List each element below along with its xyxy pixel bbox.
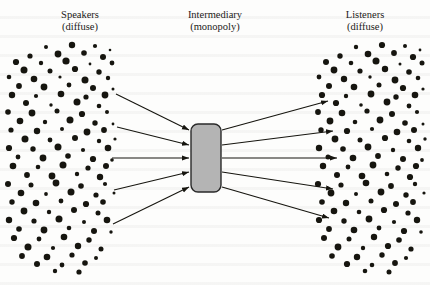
field-dot — [68, 189, 75, 196]
field-dot — [112, 123, 115, 126]
field-dot — [319, 199, 325, 205]
field-dot — [407, 139, 412, 144]
field-dot — [392, 260, 398, 266]
listeners-label-title: Listeners — [346, 9, 385, 20]
field-dot — [387, 270, 392, 275]
field-dot — [37, 237, 42, 242]
field-dot — [112, 88, 115, 91]
field-dot — [323, 59, 329, 65]
field-dot — [76, 269, 81, 274]
field-dot — [33, 200, 40, 207]
field-dot — [402, 120, 408, 126]
field-dot — [331, 67, 338, 74]
field-dot — [97, 104, 102, 109]
field-dot — [41, 227, 48, 234]
field-dot — [415, 145, 421, 151]
field-dot — [370, 263, 375, 268]
field-dot — [354, 254, 360, 260]
field-dot — [113, 192, 116, 195]
field-dot — [359, 103, 363, 107]
field-dot — [407, 174, 413, 180]
field-dot — [350, 155, 357, 162]
field-dot — [381, 207, 387, 213]
field-dot — [81, 50, 87, 56]
field-dot — [395, 165, 400, 170]
field-dot — [75, 243, 81, 249]
field-dot — [61, 234, 68, 241]
field-dot — [354, 45, 358, 49]
field-dot — [25, 244, 32, 251]
field-dot — [415, 110, 419, 114]
field-dot — [23, 100, 29, 106]
field-dot — [379, 252, 384, 257]
field-dot — [391, 50, 397, 56]
field-dot — [403, 192, 408, 197]
field-dot — [354, 192, 358, 196]
field-dot — [401, 228, 407, 234]
field-dot — [331, 208, 338, 215]
field-dot — [48, 138, 53, 143]
field-dot — [9, 199, 14, 204]
speakers-label-subtitle: (diffuse) — [33, 21, 127, 33]
field-dot — [51, 246, 55, 250]
field-dot — [404, 256, 408, 260]
field-dot — [8, 127, 13, 132]
field-dot — [422, 191, 425, 194]
field-dot — [341, 218, 346, 223]
field-dot — [414, 217, 420, 223]
field-dot — [69, 42, 75, 48]
field-dot — [333, 100, 339, 106]
field-dot — [58, 75, 61, 78]
field-dot — [83, 94, 88, 99]
field-dot — [365, 144, 372, 151]
field-dot — [13, 59, 19, 65]
field-dot — [49, 173, 56, 180]
field-dot — [389, 111, 395, 117]
field-dot — [365, 51, 372, 58]
field-dot — [105, 110, 109, 114]
field-dot — [327, 118, 334, 125]
field-dot — [65, 153, 71, 159]
field-dot — [391, 148, 395, 152]
field-dot — [60, 263, 65, 268]
field-dot — [384, 99, 391, 106]
field-dot — [22, 136, 29, 143]
field-dot — [405, 210, 410, 215]
field-dot — [344, 94, 348, 98]
field-dot — [7, 75, 12, 80]
field-dot — [340, 146, 346, 152]
field-dot — [109, 230, 112, 233]
field-dot — [29, 110, 36, 117]
field-dot — [328, 190, 335, 197]
field-dot — [406, 69, 412, 75]
field-dot — [18, 190, 25, 197]
field-dot — [60, 162, 67, 169]
field-dot — [83, 201, 89, 207]
field-dot — [419, 49, 422, 52]
field-dot — [366, 216, 373, 223]
field-dot — [82, 77, 89, 84]
field-dot — [92, 120, 97, 125]
field-dot — [408, 246, 413, 251]
field-dot — [410, 199, 416, 205]
field-dot — [370, 127, 374, 131]
field-dot — [53, 269, 57, 273]
field-dot — [49, 103, 52, 106]
field-dot — [94, 256, 98, 260]
incoming-arrow — [117, 127, 189, 145]
field-dot — [106, 76, 110, 80]
field-dot — [81, 148, 85, 152]
field-dot — [370, 162, 377, 169]
field-dot — [24, 172, 30, 178]
field-dot — [373, 58, 380, 65]
field-dot — [422, 123, 425, 126]
speakers-label: Speakers (diffuse) — [33, 9, 127, 34]
field-dot — [53, 180, 60, 187]
field-dot — [332, 136, 339, 143]
field-dot — [60, 127, 64, 131]
field-dot — [56, 216, 63, 223]
field-dot — [97, 139, 101, 143]
field-dot — [316, 145, 322, 151]
field-dot — [375, 153, 381, 159]
field-dot — [358, 138, 363, 143]
